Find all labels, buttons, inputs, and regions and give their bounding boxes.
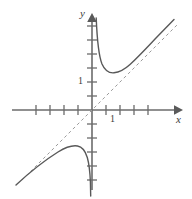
curve-left-branch xyxy=(16,146,91,196)
y-axis-label: y xyxy=(80,8,85,19)
y-axis-arrowhead xyxy=(87,13,97,22)
x-axis-label: x xyxy=(176,114,181,125)
y-axis-unit-label: 1 xyxy=(78,76,83,86)
plot-canvas xyxy=(0,0,192,199)
slant-asymptote-line xyxy=(22,25,177,180)
x-axis-unit-label: 1 xyxy=(110,114,115,124)
curve-right-branch xyxy=(96,18,174,73)
function-graph-figure: y x 1 1 xyxy=(0,0,192,199)
